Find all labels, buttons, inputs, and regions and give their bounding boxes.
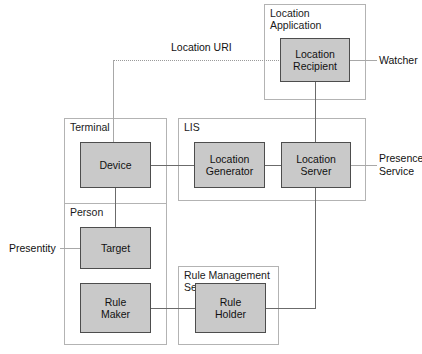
node-rule-maker[interactable]: Rule Maker [80, 283, 151, 333]
edge-label-watcher: Watcher [379, 54, 418, 67]
connector-rule-holder-to-server-vertical [315, 187, 316, 309]
node-device[interactable]: Device [80, 142, 151, 188]
node-label-location-generator: Location Generator [206, 153, 253, 178]
architecture-diagram: Location Application Terminal LIS Person… [0, 0, 422, 354]
connector-presentity [60, 248, 81, 249]
connector-generator-to-server [265, 165, 282, 166]
node-location-generator[interactable]: Location Generator [194, 142, 265, 188]
connector-watcher [350, 60, 377, 61]
connector-location-uri-vertical [113, 60, 114, 143]
node-label-location-server: Location Server [296, 153, 336, 178]
connector-rule-maker-to-rule-holder [150, 308, 196, 309]
connector-location-uri-dotted [113, 60, 281, 61]
connector-presence-service [351, 165, 377, 166]
node-rule-holder[interactable]: Rule Holder [195, 283, 266, 333]
node-label-rule-maker: Rule Maker [101, 296, 130, 321]
container-label-person: Person [70, 206, 103, 218]
container-label-lis: LIS [184, 121, 200, 133]
node-target[interactable]: Target [80, 227, 151, 269]
node-location-server[interactable]: Location Server [281, 142, 351, 188]
edge-label-presentity: Presentity [9, 242, 56, 255]
connector-device-to-location-generator [150, 165, 195, 166]
edge-label-presence-service: Presence Service [379, 152, 422, 177]
edge-label-location-uri: Location URI [171, 41, 232, 54]
connector-device-to-target [115, 188, 116, 228]
node-label-location-recipient: Location Recipient [293, 48, 337, 73]
node-label-target: Target [101, 242, 130, 255]
container-label-location-application: Location Application [270, 7, 321, 31]
node-label-rule-holder: Rule Holder [215, 296, 246, 321]
node-location-recipient[interactable]: Location Recipient [280, 38, 350, 82]
connector-recipient-to-server [315, 82, 316, 143]
node-label-device: Device [99, 159, 131, 172]
container-label-terminal: Terminal [70, 121, 110, 133]
connector-rule-holder-to-server-horizontal [265, 308, 316, 309]
